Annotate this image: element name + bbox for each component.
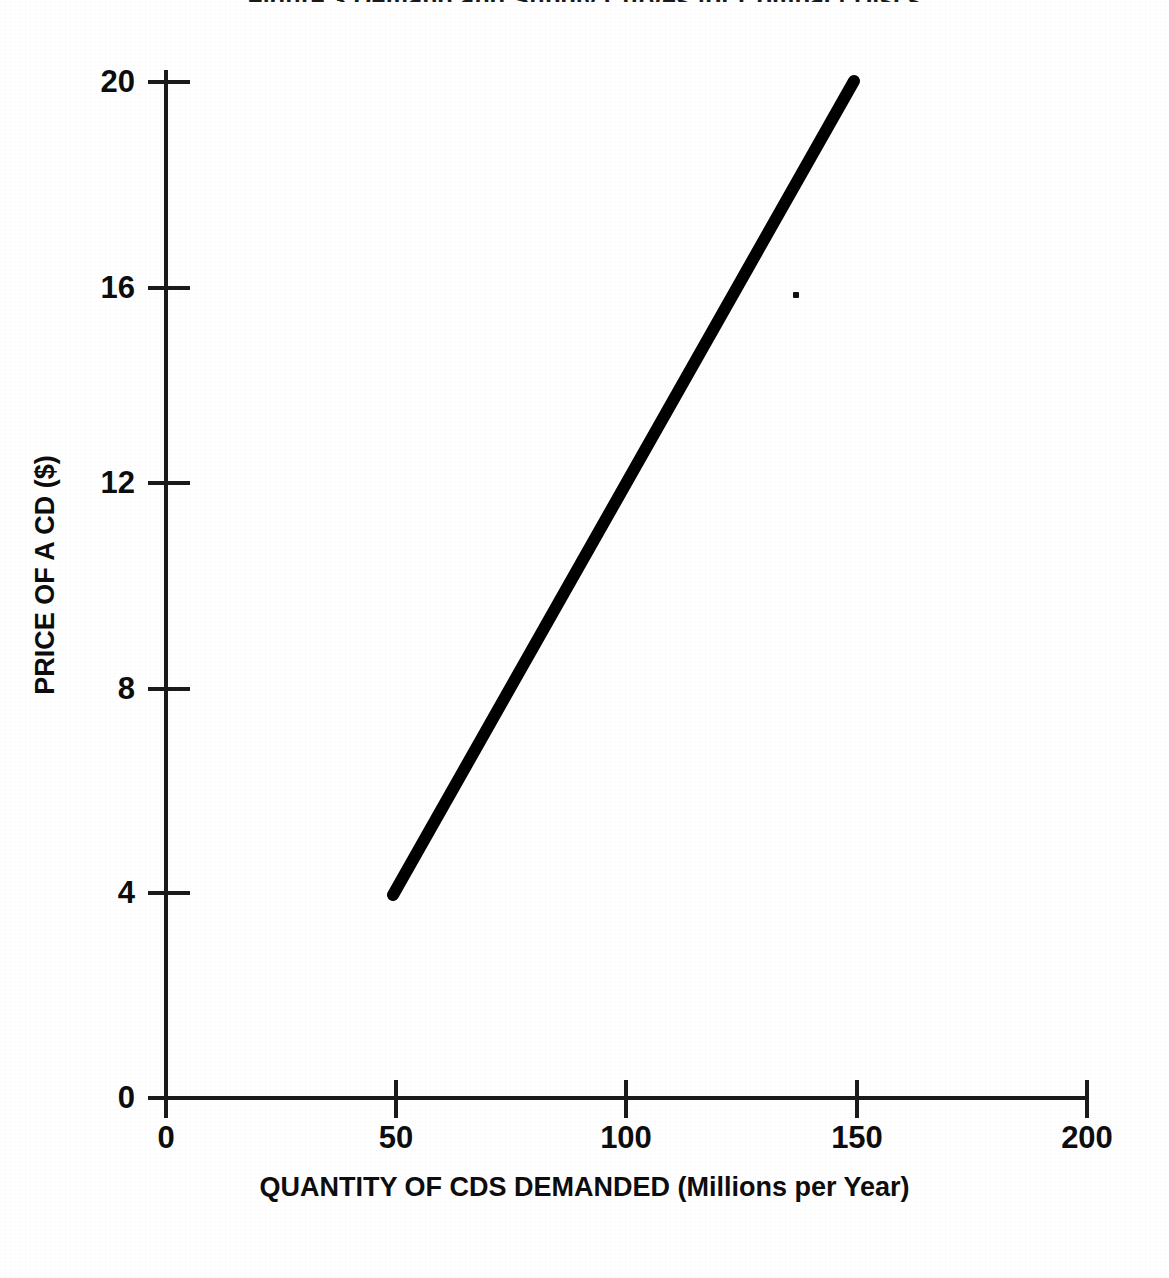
x-tick-label-200: 200 [1061,1120,1113,1156]
x-tick-label-50: 50 [379,1120,413,1156]
y-axis-ticks [148,82,190,1098]
y-tick-label-0: 0 [60,1080,135,1116]
y-tick-label-4: 4 [60,875,135,911]
scan-artifact-speck [793,292,799,298]
y-tick-label-16: 16 [60,270,135,306]
chart-plot-area [0,0,1169,1278]
y-tick-label-20: 20 [60,64,135,100]
x-axis-title: QUANTITY OF CDS DEMANDED (Millions per Y… [0,1172,1169,1203]
x-tick-label-150: 150 [831,1120,883,1156]
x-tick-label-0: 0 [157,1120,174,1156]
y-tick-label-12: 12 [60,465,135,501]
x-tick-label-100: 100 [600,1120,652,1156]
y-tick-label-8: 8 [60,671,135,707]
supply-curve-line [393,81,854,895]
y-axis-title: PRICE OF A CD ($) [30,455,61,695]
